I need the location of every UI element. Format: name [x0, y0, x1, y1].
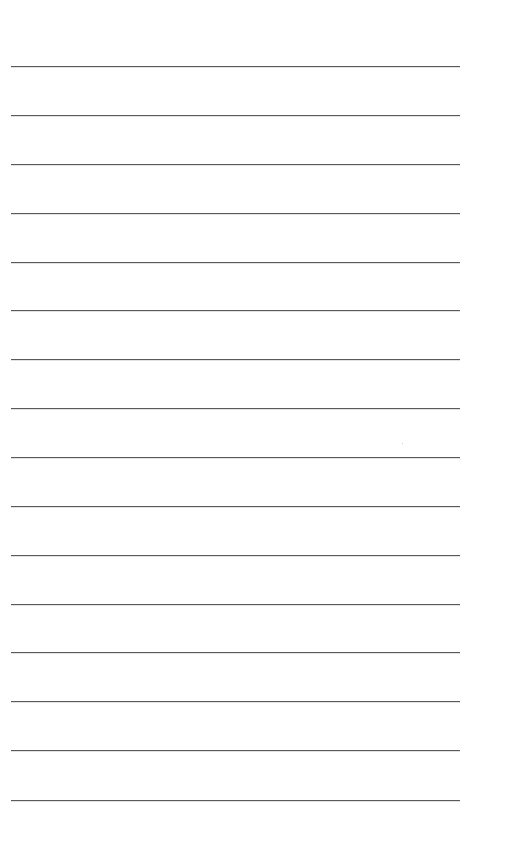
ruled-line — [11, 604, 460, 605]
ruled-line — [11, 555, 460, 556]
ruled-line — [11, 115, 460, 116]
ruled-line — [11, 213, 460, 214]
ruled-line — [11, 310, 460, 311]
ruled-line — [11, 800, 460, 801]
ruled-line — [11, 652, 460, 653]
ruled-line — [11, 457, 460, 458]
ruled-line — [11, 408, 460, 409]
lined-paper-page — [0, 0, 509, 865]
ruled-line — [11, 66, 460, 67]
ruled-line — [11, 701, 460, 702]
ruled-line — [11, 164, 460, 165]
paper-speck — [402, 443, 403, 444]
ruled-line — [11, 262, 460, 263]
ruled-line — [11, 359, 460, 360]
ruled-line — [11, 750, 460, 751]
ruled-line — [11, 506, 460, 507]
